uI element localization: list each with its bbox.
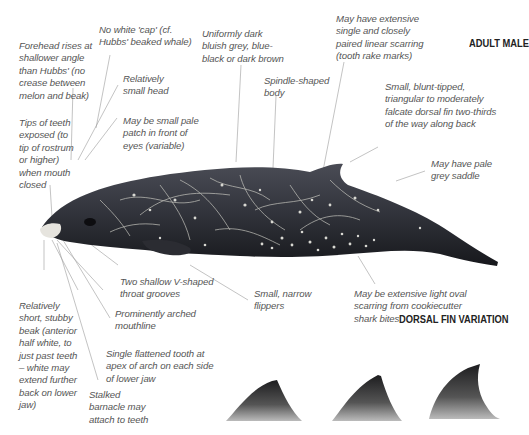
dorsal-fin-variations	[226, 364, 500, 421]
annotation-mouthline: Prominently arched mouthline	[115, 308, 196, 333]
annotation-grey-saddle: May have pale grey saddle	[431, 158, 492, 183]
annotation-pale-patch: May be small pale patch in front of eyes…	[123, 115, 199, 152]
annotation-cookiecutter: May be extensive light oval scarring fro…	[354, 288, 467, 325]
annotation-dorsal-fin: Small, blunt-tipped, triangular to moder…	[385, 81, 496, 131]
annotation-coloration: Uniformly dark bluish grey, blue- black …	[202, 28, 284, 65]
dorsal-fin-3	[429, 364, 500, 419]
annotation-no-white-cap: No white 'cap' (cf. Hubbs' beaked whale)	[99, 24, 192, 49]
dorsal-fin-2	[332, 375, 402, 421]
annotation-teeth-exposed: Tips of teeth exposed (to tip of rostrum…	[19, 117, 74, 191]
annotation-flippers: Small, narrow flippers	[254, 288, 311, 313]
dorsal-fin-1	[226, 380, 302, 421]
annotation-beak: Relatively short, stubby beak (anterior …	[19, 300, 77, 412]
annotation-forehead: Forehead rises at shallower angle than H…	[19, 40, 92, 102]
annotation-rake-marks: May have extensive single and closely pa…	[336, 13, 423, 63]
whale-body	[42, 164, 498, 266]
annotation-barnacle: Stalked barnacle may attach to teeth	[89, 389, 148, 426]
title-adult-male: ADULT MALE	[469, 37, 529, 49]
annotation-tooth: Single flattened tooth at apex of arch o…	[106, 348, 213, 385]
annotation-spindle-body: Spindle-shaped body	[264, 75, 329, 100]
annotation-small-head: Relatively small head	[123, 73, 168, 98]
annotation-throat-grooves: Two shallow V-shaped throat grooves	[120, 276, 213, 301]
